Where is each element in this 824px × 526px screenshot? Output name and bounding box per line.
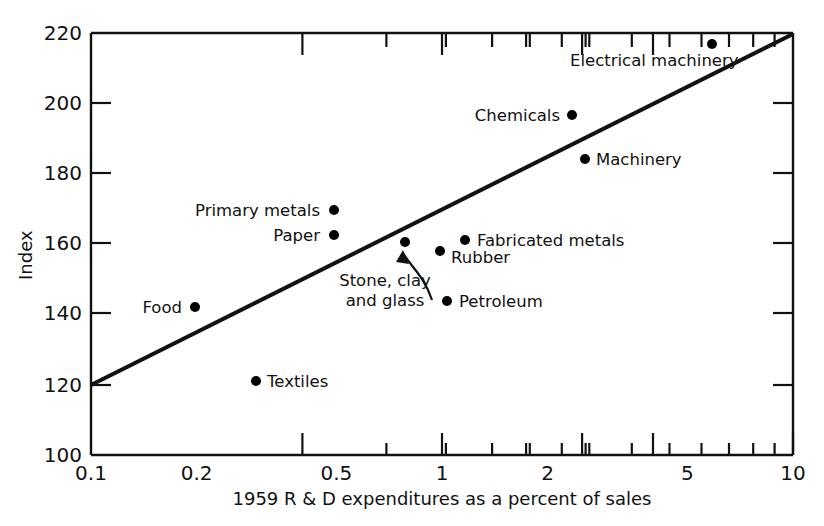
label-textiles: Textiles — [267, 373, 328, 391]
point-chemicals[interactable] — [567, 110, 577, 120]
point-primary-metals[interactable] — [329, 205, 339, 215]
x-axis-ticks-bottom — [302, 433, 793, 455]
x-tick-label-0-2: 0.2 — [167, 462, 227, 484]
y-tick-label-200: 200 — [24, 92, 82, 114]
annotation-stone-clay-glass-line2: and glass — [330, 292, 440, 310]
y-axis-ticks — [91, 103, 111, 385]
label-chemicals: Chemicals — [370, 107, 560, 125]
point-electrical-machinery[interactable] — [707, 39, 717, 49]
label-electrical-machinery: Electrical machinery — [570, 52, 739, 70]
point-paper[interactable] — [329, 230, 339, 240]
x-tick-label-1: 1 — [412, 462, 472, 484]
point-fabricated-metals[interactable] — [460, 235, 470, 245]
point-machinery[interactable] — [580, 154, 590, 164]
point-food[interactable] — [190, 302, 200, 312]
x-tick-label-2: 2 — [518, 462, 578, 484]
point-petroleum[interactable] — [442, 296, 452, 306]
label-primary-metals: Primary metals — [125, 202, 320, 220]
x-tick-label-10: 10 — [763, 462, 823, 484]
point-rubber[interactable] — [435, 246, 445, 256]
y-tick-label-180: 180 — [24, 162, 82, 184]
point-textiles[interactable] — [251, 376, 261, 386]
x-tick-label-5: 5 — [657, 462, 717, 484]
label-rubber: Rubber — [451, 249, 510, 267]
scatter-chart-figure: 220 200 180 160 140 120 100 Index 0.1 0.… — [0, 0, 824, 526]
label-machinery: Machinery — [596, 151, 682, 169]
y-axis-ticks-right — [773, 103, 793, 385]
annotation-stone-clay-glass-line1: Stone, clay — [330, 272, 440, 290]
y-axis-title: Index — [16, 230, 36, 280]
x-tick-label-0-5: 0.5 — [306, 462, 366, 484]
x-axis-title: 1959 R & D expenditures as a percent of … — [222, 489, 662, 509]
x-tick-label-0-1: 0.1 — [61, 462, 121, 484]
y-tick-label-220: 220 — [24, 22, 82, 44]
label-petroleum: Petroleum — [459, 293, 543, 311]
y-tick-label-120: 120 — [24, 374, 82, 396]
label-paper: Paper — [125, 227, 320, 245]
label-food: Food — [60, 299, 182, 317]
point-stone-clay-and-glass[interactable] — [400, 237, 410, 247]
plot-canvas — [0, 0, 824, 526]
